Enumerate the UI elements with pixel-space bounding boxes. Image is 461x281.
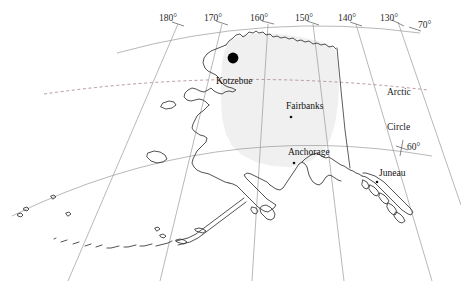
island-pribilof-2 <box>18 213 23 217</box>
island-aleutian-9 <box>54 238 56 239</box>
island-aleutian-1 <box>156 241 172 246</box>
border-canada <box>337 48 350 168</box>
island-aleutian-4 <box>107 246 119 248</box>
coast-peninsula-tail <box>176 198 244 241</box>
coastline-layer <box>18 31 413 248</box>
tick-140 <box>350 22 362 26</box>
highlight-region <box>221 33 339 167</box>
island-aleutian-11 <box>160 234 166 238</box>
map-canvas <box>0 0 461 281</box>
alaska-map: 180° 170° 160° 150° 140° 130° 70° 60° Ar… <box>0 0 461 281</box>
marker-fairbanks <box>290 116 293 119</box>
island-aleutian-3 <box>124 245 136 247</box>
island-unimak <box>176 239 187 244</box>
tick-70 <box>409 27 421 31</box>
island-aleutian-2 <box>140 244 152 246</box>
island-kodiak <box>260 205 275 220</box>
meridian-140 <box>356 24 432 281</box>
island-aleutian-8 <box>61 240 67 242</box>
highlight-region-layer <box>221 33 339 167</box>
marker-kotzebue <box>228 53 239 64</box>
marker-juneau <box>376 181 379 184</box>
meridian-130 <box>398 22 461 205</box>
island-aleutian-5 <box>96 245 102 247</box>
island-nunivak <box>147 151 167 163</box>
island-alexander-4 <box>394 212 405 223</box>
island-small-2 <box>66 212 71 216</box>
tick-160 <box>262 21 274 24</box>
island-alexander-1 <box>369 185 379 196</box>
marker-anchorage <box>293 162 296 165</box>
tick-130 <box>392 20 404 26</box>
island-kodiak-2 <box>251 207 258 214</box>
island-stlawrence <box>161 101 176 109</box>
island-small-3 <box>155 227 160 231</box>
coast-peninsula-tail-south <box>178 202 246 245</box>
island-aleutian-6 <box>85 244 91 246</box>
island-aleutian-7 <box>73 242 79 244</box>
tick-180 <box>172 22 184 26</box>
island-alexander-2 <box>379 193 389 204</box>
island-alexander-5 <box>362 180 369 189</box>
